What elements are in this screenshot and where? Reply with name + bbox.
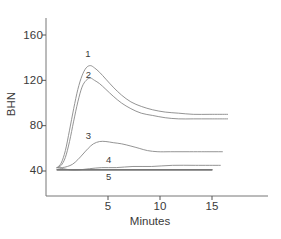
x-tick-label-5: 5 (97, 200, 119, 212)
y-tick-label-40: 40 (17, 164, 43, 176)
y-tick-label-120: 120 (17, 74, 43, 86)
x-axis-title: Minutes (120, 215, 180, 227)
y-tick-label-80: 80 (17, 119, 43, 131)
chart-container: 160 120 80 40 5 10 15 BHN Minutes 12345 (0, 0, 281, 239)
data-curve-1 (57, 66, 228, 168)
curve-label-5: 5 (106, 171, 111, 182)
y-tick-label-160: 160 (17, 29, 43, 41)
data-series-group (57, 66, 228, 170)
x-tick-label-10: 10 (149, 200, 171, 212)
axis-tick-marks (42, 35, 212, 200)
curve-label-1: 1 (85, 48, 90, 59)
data-curve-3 (57, 141, 222, 167)
x-tick-label-15: 15 (201, 200, 223, 212)
curve-label-3: 3 (86, 130, 91, 141)
curve-label-2: 2 (86, 69, 91, 80)
curve-label-4: 4 (106, 154, 111, 165)
y-axis-title: BHN (5, 84, 17, 124)
